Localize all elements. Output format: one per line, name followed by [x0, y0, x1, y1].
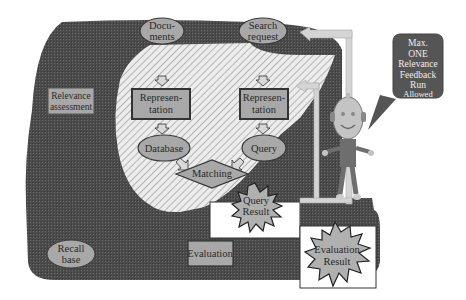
node-representation-right: Represen- tation — [240, 89, 288, 119]
node-documents: Docu- ments — [140, 18, 184, 44]
svg-text:tation: tation — [149, 104, 174, 115]
svg-text:Matching: Matching — [192, 168, 233, 179]
user-platform — [300, 203, 372, 225]
svg-text:Evaluation: Evaluation — [314, 244, 360, 255]
svg-text:Result: Result — [243, 206, 270, 217]
svg-text:Search: Search — [249, 20, 278, 31]
svg-text:Docu-: Docu- — [149, 20, 176, 31]
svg-text:ONE: ONE — [408, 49, 428, 59]
ir-evaluation-diagram: Docu- ments Search request Represen- tat… — [0, 0, 466, 300]
svg-text:Represen-: Represen- — [243, 92, 286, 103]
feedback-limit-callout: Max. ONE Relevance Feedback Run Allowed — [368, 34, 443, 130]
svg-text:Relevance: Relevance — [398, 59, 438, 69]
svg-text:Query: Query — [243, 195, 270, 206]
svg-text:Recall: Recall — [58, 243, 85, 254]
node-evaluation: Evaluation — [187, 241, 233, 266]
svg-text:Query: Query — [251, 143, 278, 154]
node-database: Database — [138, 135, 190, 161]
node-representation-left: Represen- tation — [132, 89, 190, 119]
svg-text:Relevance: Relevance — [51, 91, 91, 101]
svg-text:assessment: assessment — [50, 102, 93, 112]
svg-text:Result: Result — [324, 256, 351, 267]
node-query: Query — [242, 135, 286, 161]
svg-text:Feedback: Feedback — [400, 70, 437, 80]
svg-text:base: base — [62, 254, 81, 265]
svg-text:Database: Database — [145, 143, 184, 154]
svg-text:Allowed: Allowed — [403, 89, 433, 99]
node-relevance-assessment: Relevance assessment — [48, 88, 94, 114]
svg-text:Max.: Max. — [408, 38, 428, 48]
svg-text:ments: ments — [149, 31, 174, 42]
svg-text:tation: tation — [252, 104, 277, 115]
svg-text:request: request — [248, 31, 278, 42]
node-recall-base: Recall base — [47, 240, 95, 268]
svg-text:Represen-: Represen- — [140, 92, 183, 103]
node-search-request: Search request — [239, 18, 287, 44]
svg-text:Evaluation: Evaluation — [187, 248, 233, 259]
